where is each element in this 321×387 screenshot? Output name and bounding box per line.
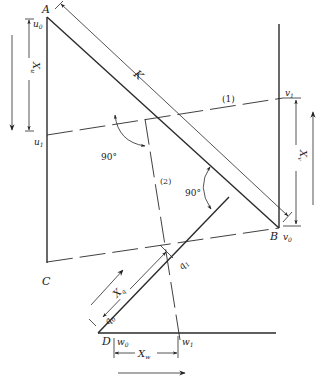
q1-label: q1 xyxy=(176,258,191,273)
angle-arc-1 xyxy=(115,115,145,146)
v0-label: v0 xyxy=(283,232,292,243)
xu-label: Xu xyxy=(30,61,42,73)
index-line-2-label: (2) xyxy=(160,177,171,186)
point-c-label: C xyxy=(42,275,51,288)
index-line-2 xyxy=(145,119,180,340)
angle-2-label: 90° xyxy=(185,188,201,198)
w1-label: w1 xyxy=(182,337,194,348)
point-b-label: B xyxy=(269,230,278,243)
k-label: K xyxy=(130,67,146,83)
q0-tick xyxy=(89,319,96,326)
index-line-1-label: (1) xyxy=(222,94,235,104)
w0-label: w0 xyxy=(117,337,129,348)
xv-label: Xv xyxy=(297,149,309,161)
nomogram-diagram: A B C D u0 u1 v1 v0 w0 w1 q0 q1 K Xu Xv … xyxy=(0,0,321,387)
v1-label: v1 xyxy=(285,88,294,99)
u0-label: u0 xyxy=(33,19,43,30)
scale-q-line xyxy=(98,197,229,333)
line-ab xyxy=(47,17,279,228)
index-line-1 xyxy=(47,98,283,135)
angle-arc-2 xyxy=(203,167,211,209)
point-a-label: A xyxy=(41,3,50,16)
angle-1-label: 90° xyxy=(101,152,117,162)
xq-dimension-line xyxy=(103,252,166,317)
k-extension-tick-b xyxy=(283,212,292,222)
point-d-label: D xyxy=(101,335,111,348)
k-dimension-line xyxy=(61,4,288,216)
u1-label: u1 xyxy=(34,137,44,148)
